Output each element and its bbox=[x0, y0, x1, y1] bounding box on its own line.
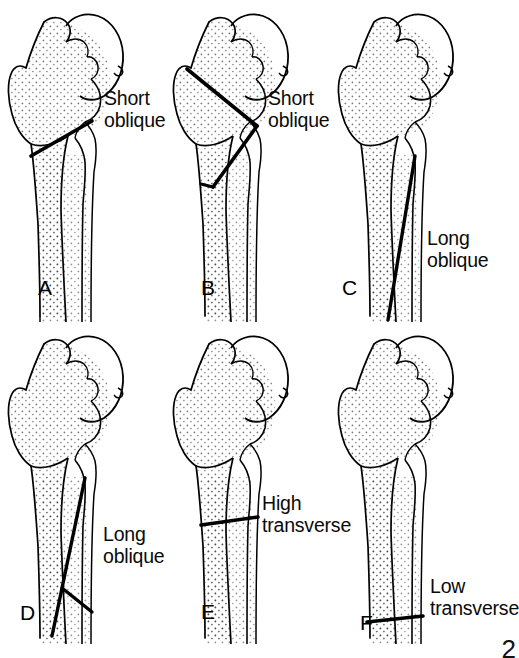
fracture-label-f-line1: Low bbox=[430, 575, 465, 597]
fracture-label-d-line1: Long bbox=[103, 523, 146, 545]
panel-b: B bbox=[165, 4, 337, 330]
fracture-label-b: Shortoblique bbox=[268, 88, 330, 132]
panel-letter-c: C bbox=[342, 277, 358, 298]
fracture-label-e-line1: High bbox=[262, 492, 301, 514]
fracture-label-d: Longoblique bbox=[103, 524, 165, 568]
panel-e: E bbox=[165, 326, 337, 652]
corner-page-mark: 2 bbox=[502, 636, 516, 658]
fracture-label-b-line1: Short bbox=[268, 87, 314, 109]
panel-letter-d: D bbox=[20, 602, 36, 623]
fracture-label-c-line1: Long bbox=[427, 227, 470, 249]
fracture-label-f-line2: transverse bbox=[430, 597, 519, 619]
panel-letter-b: B bbox=[201, 277, 216, 298]
fracture-label-a-line1: Short bbox=[104, 87, 150, 109]
fracture-label-a-line2: oblique bbox=[104, 109, 166, 131]
fracture-label-c: Longoblique bbox=[427, 228, 489, 272]
panel-a: A bbox=[0, 4, 172, 330]
fracture-label-b-line2: oblique bbox=[268, 109, 330, 131]
panel-d: D bbox=[0, 326, 172, 652]
femur-diagram-b bbox=[165, 4, 337, 330]
femur-diagram-e bbox=[165, 326, 337, 652]
fracture-label-a: Shortoblique bbox=[104, 88, 166, 132]
panel-letter-e: E bbox=[201, 601, 216, 622]
panel-letter-a: A bbox=[38, 277, 53, 298]
panel-c: C bbox=[330, 4, 502, 330]
fracture-label-d-line2: oblique bbox=[103, 545, 165, 567]
panel-letter-f: F bbox=[360, 612, 373, 633]
fracture-label-c-line2: oblique bbox=[427, 249, 489, 271]
femur-diagram-a bbox=[0, 4, 172, 330]
fracture-label-f: Lowtransverse bbox=[430, 576, 519, 620]
